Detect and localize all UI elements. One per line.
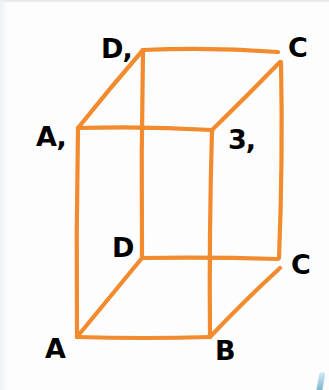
vertex-label-d: D (112, 234, 133, 261)
vertex-label-a1: A, (36, 123, 66, 150)
vertex-label-a: A (45, 335, 65, 362)
edge-d1-c1 (143, 49, 278, 52)
vertex-label-b1: 3, (228, 126, 255, 153)
edge-c1-c (279, 62, 282, 258)
edge-b1-b (210, 130, 212, 337)
edge-a-d (77, 258, 142, 337)
vertex-label-c: C (291, 251, 310, 278)
vertex-label-c1: C (288, 34, 307, 61)
edge-b-c (210, 268, 280, 337)
edge-a-b (77, 337, 210, 338)
box-diagram (0, 0, 329, 390)
edge-d1-d (142, 50, 143, 258)
edge-a1-a (77, 128, 78, 337)
vertex-label-d1: D, (101, 35, 132, 62)
edge-b1-c1 (212, 62, 280, 130)
vertex-label-b: B (215, 337, 235, 364)
edge-a1-b1 (78, 127, 212, 130)
